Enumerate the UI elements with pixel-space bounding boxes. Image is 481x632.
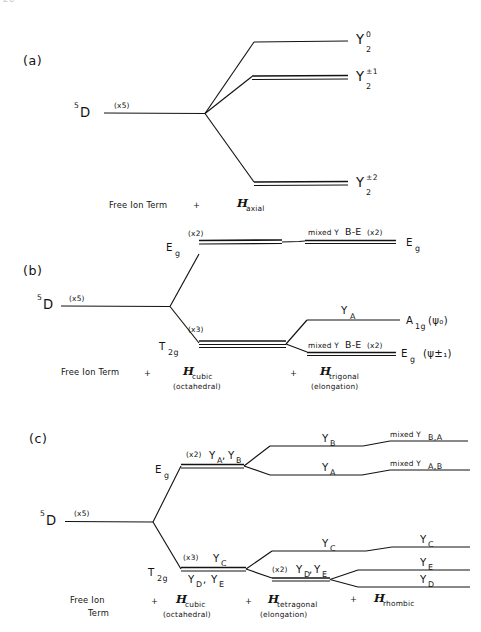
panel-a-footer: Free Ion Term + H axial <box>109 196 265 213</box>
tetragonal-label-YC: Y <box>321 538 329 549</box>
footer-term: Term <box>87 608 109 618</box>
panel-b-free-ion-term: 5 D (x5) <box>37 293 170 312</box>
tetragonal-label-YB: Y <box>321 433 329 444</box>
hamiltonian-trigonal-note: (elongation) <box>311 382 358 391</box>
panel-c-cubic-levels: E g (x2) Y A , Y B T 2g (x3) Y C Y D , <box>147 450 246 589</box>
panel-b-trigonal-connectors <box>282 241 307 352</box>
rhombic-label-YE-sub: E <box>428 563 433 572</box>
term-symbol: D <box>80 105 91 120</box>
connector-T2g-to-A1g <box>286 320 307 344</box>
free-ion-level-line <box>104 113 205 114</box>
free-ion-level-line <box>61 306 170 307</box>
trigonal-label-Eg-lower-wavefunction: (ψ±₁) <box>423 348 452 359</box>
level-label-Y2pm2-sup: ±2 <box>366 173 378 182</box>
connector-Eg-to-YA <box>244 466 270 475</box>
connector-to-Y2pm1 <box>205 77 252 114</box>
connector-YB-to-mixedBA <box>363 441 390 446</box>
panel-a-level-labels: Y 0 2 Y ±1 2 Y ±2 2 <box>355 30 378 197</box>
rhombic-label-YC-sub: C <box>428 540 434 549</box>
hamiltonian-axial-sub: axial <box>246 204 265 213</box>
hamiltonian-cubic-note: (octahedral) <box>173 382 221 391</box>
connector-to-Y20 <box>205 42 254 114</box>
connector-to-Eg <box>170 254 199 307</box>
tetragonal-label-YD: Y <box>295 564 303 575</box>
cubic-label-T2g: T <box>158 341 166 352</box>
energy-level-splitting-diagram: (a) 5 D (x5) <box>0 0 481 632</box>
term-superscript: 5 <box>40 509 45 518</box>
figure-root: 28 (a) 5 D (x5) <box>0 0 481 632</box>
panel-a: (a) 5 D (x5) <box>23 30 378 213</box>
rhombic-label-mixedBA: mixed Y <box>390 430 421 439</box>
level-label-Y2pm1-sup: ±1 <box>366 67 378 76</box>
connector-T2g-to-YDE <box>246 569 272 578</box>
cubic-annot-T2g-YD: Y <box>187 574 195 585</box>
term-superscript: 5 <box>74 101 79 110</box>
cubic-degeneracy-Eg: (x2) <box>186 450 202 459</box>
term-degeneracy: (x5) <box>74 509 90 518</box>
cubic-annot-Eg-YA: Y <box>208 450 216 461</box>
cubic-degeneracy-T2g: (x3) <box>188 325 204 334</box>
cubic-annot-Eg-YB: Y <box>227 450 235 461</box>
cubic-degeneracy-T2g: (x3) <box>183 553 199 562</box>
panel-c-tetragonal-connectors <box>244 446 272 578</box>
hamiltonian-tetragonal-sub: tetragonal <box>277 600 317 609</box>
tetragonal-degeneracy-YDE: (x2) <box>272 565 288 574</box>
panel-c: (c) 5 D (x5) E g (x2) Y A , Y <box>29 430 470 619</box>
footer-plus-3: + <box>350 594 357 604</box>
hamiltonian-trigonal-sub: trigonal <box>329 372 359 381</box>
tetragonal-label-YB-sub: B <box>330 439 336 448</box>
rhombic-label-mixedAB: mixed Y <box>390 459 421 468</box>
term-degeneracy: (x5) <box>114 101 130 110</box>
panel-a-label: (a) <box>23 53 42 68</box>
trigonal-label-A1g-sub: 1g <box>415 322 426 331</box>
cubic-label-T2g-sub: 2g <box>168 348 179 357</box>
panel-a-split-levels <box>252 41 348 186</box>
connector-YDE-to-YD <box>330 580 358 588</box>
panel-b-trigonal-levels: mixed Y B-E (x2) E g Y A A 1g (ψ₀) mixed… <box>305 226 452 364</box>
trigonal-annot-Eg-upper-tail: (x2) <box>367 228 383 237</box>
tetragonal-label-YA: Y <box>321 462 329 473</box>
panel-c-free-ion-term: 5 D (x5) <box>40 509 153 528</box>
cubic-label-Eg-sub: g <box>164 471 169 480</box>
panel-c-label: (c) <box>29 431 48 446</box>
connector-T2g-to-YC <box>246 551 272 569</box>
cubic-label-Eg-sub: g <box>175 249 180 258</box>
term-degeneracy: (x5) <box>69 294 85 303</box>
footer-free-ion-term: Free Ion Term <box>61 367 119 377</box>
level-label-Y2pm1: Y <box>355 69 365 84</box>
connector-Eg-to-trigonal-Eg <box>282 241 305 242</box>
tetragonal-annot-comma: , <box>309 564 313 575</box>
cubic-label-T2g: T <box>147 567 155 578</box>
footer-free-ion-term: Free Ion Term <box>109 200 167 210</box>
hamiltonian-cubic-sub: cubic <box>185 600 206 609</box>
panel-b: (b) 5 D (x5) E g (x2) T 2g <box>23 226 452 391</box>
panel-b-footer: Free Ion Term + H cubic (octahedral) + H… <box>61 364 359 391</box>
level-line-Y20 <box>254 41 348 42</box>
panel-c-tetragonal-levels: Y B Y A Y C (x2) Y D , Y E <box>270 433 366 581</box>
panel-a-connectors <box>205 42 254 182</box>
panel-c-rhombic-connectors <box>330 441 392 587</box>
panel-c-cubic-connectors <box>153 466 181 569</box>
connector-to-Y2pm2 <box>205 114 254 183</box>
hamiltonian-rhombic-sub: rhombic <box>383 599 415 608</box>
footer-plus-1: + <box>151 596 158 606</box>
cubic-annot-T2g-YE-sub: E <box>219 580 224 589</box>
level-label-Y2pm2-sub: 2 <box>366 188 371 197</box>
trigonal-annot-Eg-lower-tail: (x2) <box>367 341 383 350</box>
hamiltonian-cubic-sub: cubic <box>192 372 213 381</box>
connector-YC-to-YC <box>366 547 392 551</box>
cubic-level-line-Eg-upper <box>199 240 282 241</box>
cubic-label-Eg: E <box>155 464 162 475</box>
cubic-annot-T2g-YD-sub: D <box>196 580 202 589</box>
trigonal-annot-Eg-lower: mixed Y <box>308 341 339 350</box>
level-label-Y2pm2: Y <box>355 175 365 190</box>
cubic-annot-comma-2: , <box>203 574 207 585</box>
connector-YDE-to-YE <box>330 570 358 580</box>
trigonal-label-A1g-wavefunction: (ψ₀) <box>428 315 448 326</box>
term-symbol: D <box>43 297 54 312</box>
hamiltonian-cubic-note: (octahedral) <box>163 610 211 619</box>
rhombic-label-YE: Y <box>419 557 427 568</box>
free-ion-level-line <box>65 522 153 523</box>
panel-b-label: (b) <box>23 263 43 278</box>
connector-to-T2g <box>153 522 181 569</box>
